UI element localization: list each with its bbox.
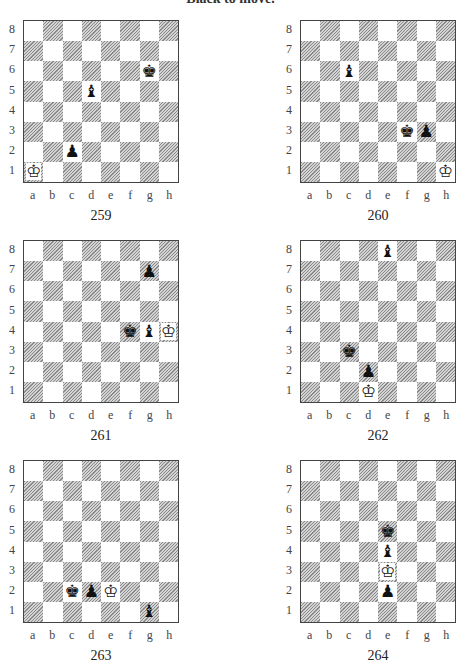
- square-f8: [120, 461, 139, 481]
- diagram-number: 263: [23, 648, 179, 664]
- square-g3: [140, 122, 159, 142]
- square-h4: [436, 542, 455, 562]
- square-g6: [417, 501, 436, 521]
- square-g5: [140, 81, 159, 101]
- file-label: d: [359, 188, 379, 203]
- file-label: e: [101, 408, 121, 423]
- square-g5: [417, 81, 436, 101]
- file-label: a: [300, 188, 320, 203]
- square-d7: [359, 41, 378, 61]
- square-h5: [159, 521, 178, 541]
- square-c2: [340, 142, 359, 162]
- rank-label: 7: [5, 262, 15, 277]
- rank-label: 8: [5, 22, 15, 37]
- file-label: g: [417, 628, 437, 643]
- square-f6: [120, 61, 139, 81]
- file-label: h: [160, 628, 180, 643]
- square-f5: [397, 301, 416, 321]
- square-h5: [159, 301, 178, 321]
- square-f2: [397, 362, 416, 382]
- white-king-icon: ♔: [26, 163, 41, 180]
- square-d7: [359, 261, 378, 281]
- square-g5: [417, 521, 436, 541]
- square-b3: [43, 562, 62, 582]
- square-h8: [159, 241, 178, 261]
- square-c4: [63, 102, 82, 122]
- square-c4: [340, 322, 359, 342]
- rank-label: 1: [282, 603, 292, 618]
- square-g2: [417, 142, 436, 162]
- square-g1: [140, 162, 159, 182]
- chess-board: ♚♝♟♔: [23, 20, 179, 183]
- rank-label: 3: [282, 343, 292, 358]
- square-a6: [24, 281, 43, 301]
- square-h1: [159, 602, 178, 622]
- square-h7: [159, 41, 178, 61]
- square-f7: [120, 261, 139, 281]
- square-a2: [301, 582, 320, 602]
- square-b8: [43, 21, 62, 41]
- square-a7: [24, 261, 43, 281]
- square-g3: [417, 562, 436, 582]
- file-label: h: [160, 408, 180, 423]
- square-g6: [417, 281, 436, 301]
- rank-label: 8: [282, 22, 292, 37]
- rank-label: 7: [282, 262, 292, 277]
- square-g5: [417, 301, 436, 321]
- square-f1: [120, 162, 139, 182]
- square-g2: [140, 582, 159, 602]
- square-h3: [436, 562, 455, 582]
- black-king-icon: ♚: [142, 63, 157, 80]
- file-label: f: [121, 408, 141, 423]
- rank-label: 4: [282, 543, 292, 558]
- square-f8: [120, 21, 139, 41]
- black-pawn-icon: ♟: [65, 143, 80, 160]
- square-e3: ♔: [378, 562, 397, 582]
- square-b2: [43, 582, 62, 602]
- square-b1: [43, 382, 62, 402]
- chess-board: ♟♚♝♔: [23, 240, 179, 403]
- square-c6: [63, 501, 82, 521]
- square-c1: [340, 602, 359, 622]
- square-e3: [378, 342, 397, 362]
- square-g4: [417, 322, 436, 342]
- square-c5: [63, 521, 82, 541]
- square-b1: [43, 602, 62, 622]
- square-a1: [301, 602, 320, 622]
- square-d3: [82, 122, 101, 142]
- square-b5: [320, 81, 339, 101]
- square-a2: [24, 362, 43, 382]
- black-pawn-icon: ♟: [142, 263, 157, 280]
- square-d6: [82, 501, 101, 521]
- square-b7: [43, 481, 62, 501]
- square-c5: [340, 521, 359, 541]
- square-f3: [120, 342, 139, 362]
- square-a7: [301, 481, 320, 501]
- square-g5: [140, 301, 159, 321]
- square-f5: [397, 521, 416, 541]
- square-a6: [24, 501, 43, 521]
- square-f4: [397, 322, 416, 342]
- square-d4: [82, 542, 101, 562]
- square-h6: [159, 61, 178, 81]
- square-b7: [43, 41, 62, 61]
- square-f5: [120, 521, 139, 541]
- square-h8: [436, 241, 455, 261]
- square-h6: [436, 281, 455, 301]
- file-label: a: [23, 628, 43, 643]
- square-h7: [436, 261, 455, 281]
- square-d4: [359, 102, 378, 122]
- file-label: f: [398, 628, 418, 643]
- file-label: d: [359, 628, 379, 643]
- square-h6: [436, 61, 455, 81]
- square-e4: [101, 542, 120, 562]
- rank-label: 6: [5, 62, 15, 77]
- square-a7: [301, 41, 320, 61]
- square-g4: [140, 102, 159, 122]
- square-d4: [82, 102, 101, 122]
- square-f1: [397, 602, 416, 622]
- square-a2: [24, 582, 43, 602]
- square-b1: [320, 602, 339, 622]
- square-b1: [43, 162, 62, 182]
- square-f3: ♚: [397, 122, 416, 142]
